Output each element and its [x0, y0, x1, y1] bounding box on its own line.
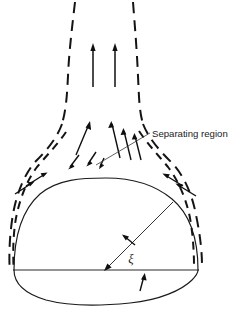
figure-root: ξ Separating region [0, 0, 246, 311]
upward-flow-arrow-right-head [112, 43, 117, 51]
hemispherical-body [13, 178, 199, 305]
radius-dimension-line [105, 202, 173, 270]
radius-symbol: ξ [128, 252, 134, 266]
neck-arrow-right-mid-head [121, 128, 127, 135]
neck-arrow-right-outer [135, 136, 141, 160]
left-shear-layer [13, 132, 66, 266]
right-jet-boundary-upper [133, 2, 143, 124]
base-plane-indicator [140, 273, 147, 291]
separating-region-annotation: Separating region [96, 128, 228, 165]
right-shear-layer [139, 131, 194, 266]
body-dome-arc [14, 178, 198, 270]
neck-arrow-right-long-head [108, 121, 114, 128]
neck-arrow-left-long [76, 124, 89, 155]
radius-dimension: ξ [104, 202, 173, 271]
separating-region-label: Separating region [152, 128, 228, 139]
base-plane-arrow-head [141, 273, 147, 280]
separating-region-leader [96, 133, 150, 165]
neck-arrow-right-mid [124, 131, 131, 160]
neck-arrow-right-outer-head [132, 133, 138, 140]
upward-flow-arrows [90, 43, 117, 87]
upward-flow-arrow-left-head [90, 43, 95, 51]
left-jet-boundary-upper [62, 2, 75, 124]
separating-region-diagram: ξ Separating region [0, 0, 246, 311]
base-ellipse-lower-arc [14, 270, 198, 305]
recirculation-arrow-centre-head [86, 160, 92, 166]
left-jet-boundary-lower [9, 124, 62, 265]
